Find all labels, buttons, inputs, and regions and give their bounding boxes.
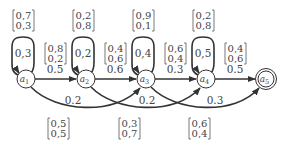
final-state-node-a5: a5 (256, 69, 277, 90)
svg-text:0,4: 0,4 (192, 128, 208, 139)
self-loop-prob-a3: 0,4 (135, 47, 152, 59)
emission-vector-a3-a5: 0,6 0,4 (189, 118, 210, 139)
self-loop-prob-a1: 0,3 (15, 47, 32, 59)
skip-edge-labels: 0.2 0.2 0.3 (65, 94, 224, 106)
edge-prob-a2-a4: 0.2 (139, 94, 156, 106)
emission-vector-a4-a5: 0,4 0,6 (225, 43, 246, 64)
svg-text:0,3: 0,3 (16, 20, 32, 31)
emission-vector-a3-a4: 0,6 0,4 (165, 43, 186, 64)
state-node-a4: a4 (197, 70, 215, 88)
edge-prob-a2-a3: 0.6 (107, 63, 124, 75)
svg-text:0,7: 0,7 (122, 128, 138, 139)
emission-vector-a2-a4: 0,3 0,7 (119, 118, 140, 139)
self-loop-emissions: 0,7 0,3 0,2 0,8 0,9 0,1 0,2 0,8 (13, 10, 214, 31)
svg-text:0,4: 0,4 (168, 53, 184, 64)
emission-vector-a4: 0,2 0,8 (193, 10, 214, 31)
emission-vector-a1: 0,7 0,3 (13, 10, 34, 31)
svg-text:0,8: 0,8 (76, 20, 92, 31)
hmm-diagram: 0,3 0,2 0,4 0,5 0,7 0,3 0,2 0,8 0,9 (0, 0, 288, 144)
state-node-a2: a2 (77, 70, 95, 88)
edge-prob-a1-a3: 0.2 (65, 94, 82, 106)
edge-prob-a1-a2: 0.5 (47, 63, 64, 75)
edge-a3-a5 (151, 87, 259, 107)
svg-text:0,8: 0,8 (196, 20, 212, 31)
emission-vector-a2-a3: 0,4 0,6 (105, 43, 126, 64)
emission-vector-a3: 0,9 0,1 (133, 10, 154, 31)
state-node-a3: a3 (137, 70, 155, 88)
emission-vector-a1-a2: 0,8 0,2 (45, 43, 66, 64)
svg-text:0,6: 0,6 (228, 53, 244, 64)
edge-prob-a3-a5: 0.3 (207, 94, 224, 106)
edge-prob-a4-a5: 0.5 (227, 63, 244, 75)
self-loop-prob-a2: 0,2 (75, 47, 92, 59)
emission-vector-a2: 0,2 0,8 (73, 10, 94, 31)
svg-text:0,6: 0,6 (108, 53, 124, 64)
state-node-a1: a1 (17, 70, 35, 88)
edge-prob-a3-a4: 0.3 (167, 63, 184, 75)
self-loop-prob-a4: 0,5 (195, 47, 212, 59)
emission-vector-a1-a3: 0,5 0,5 (48, 118, 69, 139)
svg-text:0,1: 0,1 (136, 20, 152, 31)
svg-text:0,5: 0,5 (51, 128, 67, 139)
svg-text:0,2: 0,2 (48, 53, 64, 64)
skip-edge-emissions: 0,5 0,5 0,3 0,7 0,6 0,4 (48, 118, 210, 139)
